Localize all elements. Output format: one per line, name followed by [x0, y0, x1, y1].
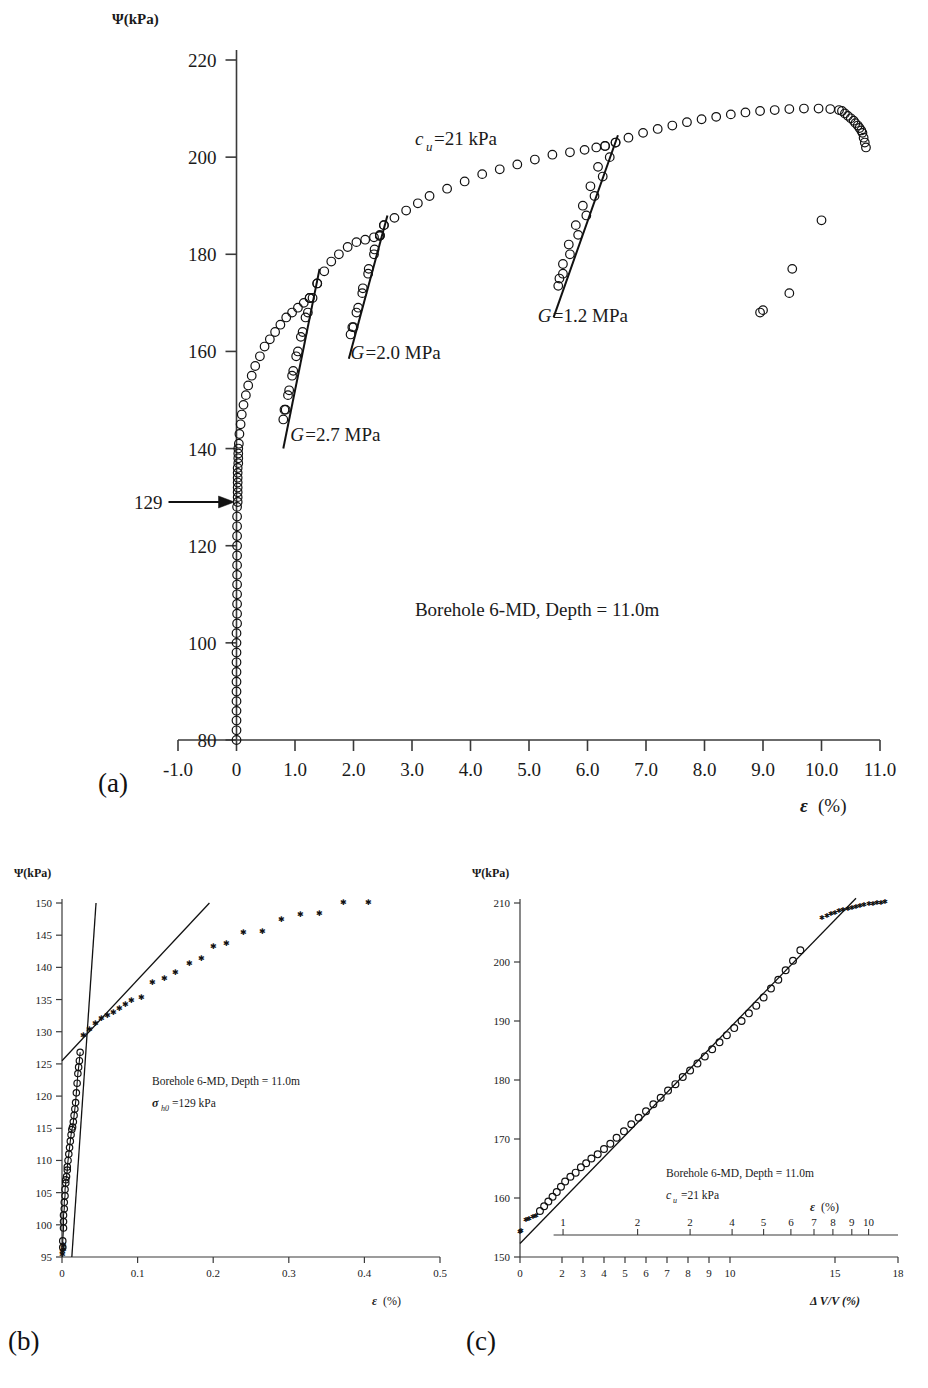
- svg-text:u: u: [673, 1196, 677, 1205]
- panel-label-c: (c): [466, 1326, 496, 1357]
- svg-text:✱: ✱: [138, 993, 145, 1002]
- panel-b-x-axis-title: ε(%): [372, 1294, 401, 1308]
- panel-c-chart: 1501601701801902002100234567891015181224…: [458, 855, 928, 1355]
- svg-text:ε: ε: [800, 795, 808, 816]
- panel-label-b: (b): [8, 1326, 39, 1357]
- svg-text:190: 190: [494, 1015, 511, 1027]
- svg-text:140: 140: [188, 439, 217, 460]
- panel-a-fit-lines: [283, 135, 618, 448]
- panel-b-y-ticks: 95100105110115120125130135140145150: [36, 897, 63, 1263]
- svg-text:u: u: [426, 139, 433, 154]
- panel-a-sigma-h0-marker: 129: [134, 492, 235, 513]
- svg-text:95: 95: [41, 1251, 53, 1263]
- svg-text:✱: ✱: [240, 928, 247, 937]
- svg-text:7: 7: [811, 1216, 817, 1228]
- svg-text:✱: ✱: [340, 898, 347, 907]
- panel-b-chart: 9510010511011512012513013514014515000.10…: [0, 855, 470, 1355]
- panel-b-sigma-h0-annotation: σh0 =129 kPa: [152, 1096, 216, 1113]
- svg-text:115: 115: [36, 1122, 53, 1134]
- panel-c-x-axis-title-bottom: Δ V/V (%): [809, 1294, 860, 1308]
- svg-text:Borehole 6-MD, Depth = 11.0m: Borehole 6-MD, Depth = 11.0m: [152, 1075, 300, 1088]
- svg-text:✱: ✱: [128, 996, 135, 1005]
- svg-text:2: 2: [687, 1216, 693, 1228]
- svg-text:✱: ✱: [186, 959, 193, 968]
- svg-text:✱: ✱: [518, 1227, 524, 1235]
- svg-text:(%): (%): [818, 795, 846, 817]
- svg-text:0: 0: [232, 759, 242, 780]
- svg-text:0.2: 0.2: [206, 1267, 220, 1279]
- svg-text:=21 kPa: =21 kPa: [434, 128, 498, 149]
- panel-a-test-caption: Borehole 6-MD, Depth = 11.0m: [415, 599, 660, 620]
- panel-a-series-8: [756, 216, 826, 317]
- svg-text:6: 6: [643, 1267, 649, 1279]
- svg-text:160: 160: [188, 341, 217, 362]
- svg-text:0.5: 0.5: [433, 1267, 447, 1279]
- svg-text:5: 5: [622, 1267, 628, 1279]
- svg-text:ε: ε: [810, 1200, 815, 1214]
- svg-text:4: 4: [601, 1267, 607, 1279]
- panel-a-series-5: [554, 138, 620, 290]
- svg-text:5.0: 5.0: [517, 759, 541, 780]
- svg-text:180: 180: [188, 244, 217, 265]
- panel-a-y-ticks: 80100120140160180200220: [188, 50, 237, 751]
- svg-text:G: G: [290, 424, 304, 445]
- panel-a-chart: 80100120140160180200220129-1.001.02.03.0…: [0, 0, 928, 830]
- panel-a-fit-line-2: [554, 135, 618, 317]
- svg-text:0.4: 0.4: [358, 1267, 372, 1279]
- panel-a-series-2: [313, 232, 384, 288]
- svg-text:2: 2: [635, 1216, 641, 1228]
- svg-text:9: 9: [849, 1216, 855, 1228]
- svg-text:10: 10: [725, 1267, 737, 1279]
- svg-text:4.0: 4.0: [459, 759, 483, 780]
- svg-text:2: 2: [559, 1267, 565, 1279]
- svg-text:✱: ✱: [297, 910, 304, 919]
- panel-c-cu-annotation: cu =21 kPa: [666, 1188, 719, 1205]
- panel-c-x-axis-title-top: ε(%): [810, 1200, 839, 1214]
- svg-text:=129 kPa: =129 kPa: [172, 1097, 216, 1109]
- svg-text:80: 80: [198, 730, 217, 751]
- svg-text:ε: ε: [372, 1294, 377, 1308]
- svg-text:145: 145: [36, 929, 53, 941]
- svg-text:✱: ✱: [149, 978, 156, 987]
- svg-text:150: 150: [494, 1251, 511, 1263]
- panel-c-x-ticks-bottom: 023456789101518: [517, 1257, 904, 1279]
- svg-text:200: 200: [188, 147, 217, 168]
- svg-text:0: 0: [59, 1267, 65, 1279]
- panel-a-series-4: [380, 142, 610, 230]
- svg-text:(%): (%): [821, 1200, 839, 1214]
- svg-text:170: 170: [494, 1133, 511, 1145]
- panel-label-a: (a): [98, 768, 128, 799]
- svg-text:7.0: 7.0: [634, 759, 658, 780]
- svg-text:0.3: 0.3: [282, 1267, 296, 1279]
- svg-text:18: 18: [893, 1267, 905, 1279]
- svg-text:Borehole 6-MD, Depth = 11.0m: Borehole 6-MD, Depth = 11.0m: [666, 1167, 814, 1180]
- panel-a-y-axis-title: Ψ(kPa): [112, 11, 159, 28]
- panel-a-x-ticks: -1.001.02.03.04.05.06.07.08.09.010.011.0: [163, 740, 896, 780]
- svg-text:G: G: [538, 305, 552, 326]
- panel-a-series-7: [838, 107, 871, 152]
- svg-text:✱: ✱: [210, 942, 217, 951]
- svg-text:9: 9: [706, 1267, 712, 1279]
- svg-text:8: 8: [830, 1216, 836, 1228]
- panel-a-series-6: [611, 104, 843, 147]
- svg-text:(%): (%): [383, 1294, 401, 1308]
- svg-text:=2.0 MPa: =2.0 MPa: [366, 342, 442, 363]
- svg-text:1: 1: [560, 1216, 566, 1228]
- svg-text:c: c: [415, 128, 424, 149]
- svg-text:105: 105: [36, 1187, 53, 1199]
- svg-text:Borehole 6-MD, Depth = 11.0m: Borehole 6-MD, Depth = 11.0m: [415, 599, 660, 620]
- svg-text:100: 100: [36, 1219, 53, 1231]
- svg-text:10.0: 10.0: [805, 759, 838, 780]
- svg-text:200: 200: [494, 956, 511, 968]
- svg-text:11.0: 11.0: [864, 759, 897, 780]
- svg-text:✱: ✱: [60, 1241, 67, 1250]
- svg-text:140: 140: [36, 961, 53, 973]
- panel-a-fit-line-0: [283, 269, 319, 449]
- svg-text:135: 135: [36, 994, 53, 1006]
- svg-text:0: 0: [517, 1267, 523, 1279]
- svg-text:✱: ✱: [365, 898, 372, 907]
- svg-text:1.0: 1.0: [283, 759, 307, 780]
- svg-text:8.0: 8.0: [693, 759, 717, 780]
- panel-a-x-axis-title: ε(%): [800, 795, 846, 817]
- svg-text:100: 100: [188, 633, 217, 654]
